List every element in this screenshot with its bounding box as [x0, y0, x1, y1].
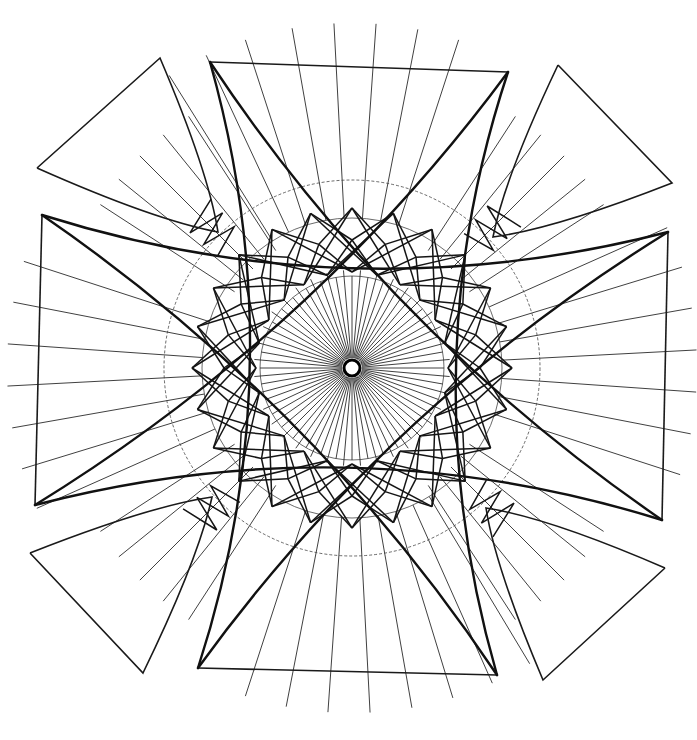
- outer-ray-line: [286, 515, 323, 706]
- ray-line: [353, 378, 361, 466]
- lattice-line: [261, 277, 304, 284]
- outer-ray-line: [502, 378, 697, 392]
- outer-ray-line: [22, 412, 208, 469]
- outer-ray-line: [381, 29, 418, 220]
- ray-line: [254, 359, 342, 367]
- outer-ray-line: [413, 505, 492, 683]
- outer-ray-line: [292, 28, 326, 220]
- outer-ray-line: [396, 511, 453, 697]
- ray-line: [296, 376, 346, 448]
- petal-top-right: [493, 65, 672, 237]
- ray-line: [353, 270, 361, 358]
- outer-ray-line: [206, 55, 288, 232]
- geometric-construction-drawing: [0, 0, 697, 740]
- lattice-line: [261, 277, 268, 320]
- outer-ray-line: [495, 267, 681, 324]
- outer-ray-line: [245, 40, 305, 225]
- center-hub: [344, 360, 360, 376]
- petal-bottom-right: [486, 508, 665, 680]
- lattice-line: [435, 416, 442, 459]
- lattice-line: [400, 277, 443, 284]
- arc-lb-rb: [35, 467, 662, 520]
- frame-edge-left: [35, 215, 42, 505]
- outer-ray-line: [8, 344, 203, 358]
- lattice-line: [400, 451, 443, 458]
- ray-line: [362, 369, 450, 377]
- frame-edge-right: [662, 232, 668, 520]
- outer-ray-line: [360, 518, 370, 713]
- lattice-line: [261, 416, 268, 459]
- frame-edge-bottom: [198, 668, 497, 675]
- outer-ray-line: [502, 350, 697, 360]
- ray-line: [362, 359, 450, 367]
- outer-ray-line: [13, 302, 204, 339]
- petal-ray-line: [451, 156, 564, 269]
- outer-ray-line: [37, 429, 215, 508]
- ray-line: [254, 369, 342, 377]
- arc-tl-rb: [210, 62, 662, 520]
- petal-ray-line: [140, 467, 253, 580]
- petal-top-left: [37, 58, 218, 232]
- outer-ray-line: [12, 394, 204, 428]
- ray-line: [343, 270, 351, 358]
- outer-ray-line: [398, 40, 458, 225]
- ray-line: [296, 288, 346, 360]
- outer-ray-line: [499, 397, 690, 434]
- ray-line: [343, 378, 351, 466]
- outer-ray-line: [378, 516, 412, 708]
- outer-ray-line: [362, 24, 376, 219]
- outer-ray-line: [7, 376, 202, 386]
- arc-lt-rt: [42, 215, 668, 269]
- ray-line: [272, 374, 344, 424]
- diagram-canvas: [0, 0, 697, 740]
- outer-ray-line: [429, 497, 529, 664]
- lattice-line: [435, 277, 442, 320]
- arc-tl-bl: [198, 62, 250, 668]
- outer-ray-line: [500, 308, 692, 342]
- outer-ray-line: [328, 518, 342, 713]
- outer-ray-line: [245, 511, 305, 696]
- outer-ray-line: [334, 23, 344, 218]
- petal-bottom-left: [30, 497, 212, 673]
- frame-edge-top: [210, 62, 508, 72]
- lattice-line: [261, 451, 304, 458]
